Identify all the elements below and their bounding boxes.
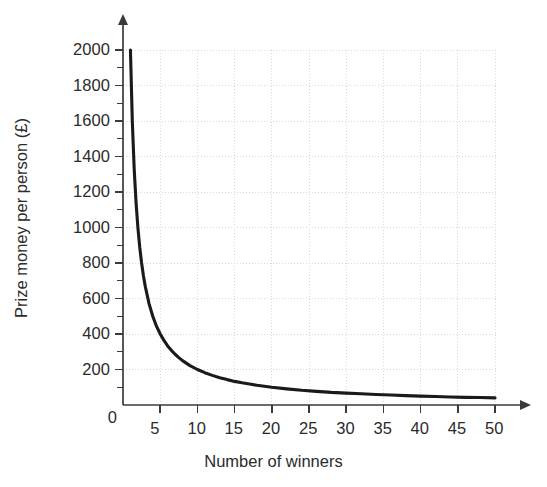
x-axis-title: Number of winners [0,452,547,471]
y-axis-ticks [115,50,123,387]
horizontal-gridlines [123,50,497,370]
y-tick-label: 2000 [73,40,110,59]
y-tick-label: 1600 [73,111,110,130]
x-axis-ticks [160,405,495,413]
chart-container: Prize money per person (£) 0200400600800… [0,0,547,487]
y-tick-label: 1800 [73,76,110,95]
axis-lines [118,14,531,410]
y-tick-label: 800 [82,253,110,272]
y-axis-title: Prize money per person (£) [12,118,30,318]
chart-plot-area: Prize money per person (£) [0,0,547,487]
y-tick-label: 1400 [73,147,110,166]
x-tick-label: 50 [0,419,547,438]
y-tick-label: 400 [82,324,110,343]
y-tick-label: 600 [82,289,110,308]
y-axis-title-group: Prize money per person (£) [12,118,30,318]
y-tick-label: 200 [82,360,110,379]
y-tick-label: 1200 [73,182,110,201]
y-tick-label: 1000 [73,218,110,237]
data-curve [130,50,495,398]
